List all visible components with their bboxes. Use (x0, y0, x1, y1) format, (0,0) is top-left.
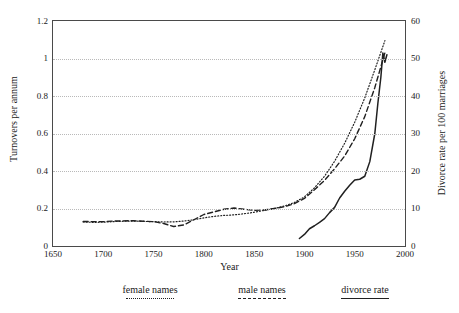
y-axis-right-tick-label: 40 (411, 92, 420, 101)
series-line-male-names (83, 53, 385, 227)
y-axis-left-tick-label: 0.4 (37, 167, 48, 176)
series-line-female-names (83, 41, 385, 223)
y-axis-left-tick-label: 1 (44, 54, 49, 63)
gridline (53, 96, 405, 97)
x-axis-tick-label: 1850 (245, 250, 263, 259)
gridline (53, 59, 405, 60)
y-axis-right-tick-label: 60 (411, 17, 420, 26)
y-axis-left-title: Turnovers per annum (9, 54, 19, 184)
legend-item-female-names[interactable]: female names (90, 284, 210, 299)
legend-item-male-names[interactable]: male names (202, 284, 322, 299)
x-axis-tick-label: 1650 (44, 250, 62, 259)
chart-figure: Turnovers per annum Divorce rate per 100… (0, 0, 459, 313)
y-axis-left-tick-label: 0.2 (37, 204, 48, 213)
gridline (53, 209, 405, 210)
y-axis-right-tick-label: 30 (411, 129, 420, 138)
legend-line-sample-solid (341, 298, 389, 299)
legend-line-sample-dashed (238, 298, 286, 299)
chart-legend: female namesmale namesdivorce rate (0, 284, 459, 312)
gridline (53, 134, 405, 135)
y-axis-left-tick-label: 0.8 (37, 92, 48, 101)
y-axis-right-tick-label: 50 (411, 54, 420, 63)
legend-item-divorce-rate[interactable]: divorce rate (305, 284, 425, 299)
y-axis-right-title: Divorce rate per 100 marriages (437, 43, 447, 223)
y-axis-left-tick-label: 0.6 (37, 129, 48, 138)
x-axis-tick-label: 1700 (94, 250, 112, 259)
y-axis-right-tick-label: 20 (411, 167, 420, 176)
gridline (53, 171, 405, 172)
x-axis-tick-label: 1800 (195, 250, 213, 259)
x-axis-tick-label: 1950 (346, 250, 364, 259)
x-axis-title: Year (0, 262, 459, 272)
y-axis-right-tick-label: 10 (411, 204, 420, 213)
legend-label: female names (90, 284, 210, 295)
x-axis-tick-label: 1900 (295, 250, 313, 259)
y-axis-left-tick-label: 1.2 (37, 17, 48, 26)
x-axis-tick-label: 1750 (145, 250, 163, 259)
legend-label: divorce rate (305, 284, 425, 295)
legend-line-sample-dotted (126, 298, 174, 299)
plot-area (52, 20, 406, 247)
x-axis-tick-label: 2000 (396, 250, 414, 259)
legend-label: male names (202, 284, 322, 295)
